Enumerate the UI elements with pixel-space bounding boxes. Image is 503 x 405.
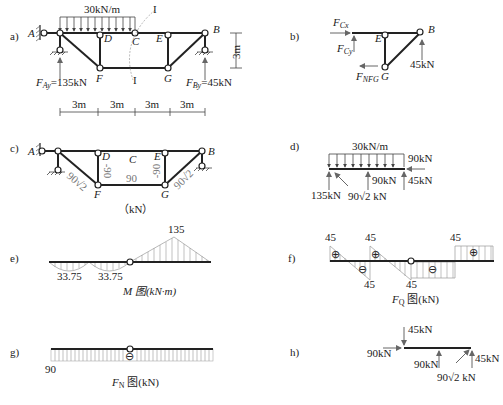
force-45kN-top-h: 45kN [408,323,433,335]
moment-value-2: 33.75 [98,270,123,282]
shear-diagram-title: FQ 图(kN) [391,293,439,307]
panel-a-label: a) [10,30,19,43]
node-G-label-c: G [161,188,169,200]
panel-c-member-forces: c) A D C E B F G 90√2 -90 90 -90 90√2 （k… [10,142,215,215]
node-A-label-c: A [27,145,35,157]
section-mark-bottom: I [133,74,137,86]
span-1: 3m [72,98,87,110]
node-B-label-b: B [428,23,435,35]
node-C-label-c: C [129,153,137,165]
node-C-label: C [132,35,140,47]
panel-f-shear-diagram: f) ⊕ ⊖ ⊕ ⊖ ⊕ 45 45 45 45 45 FQ 图(kN) [288,231,494,307]
panel-c-label: c) [10,142,19,155]
distributed-load-label-d: 30kN/m [352,140,389,152]
panel-d-label: d) [290,140,300,153]
distributed-load-label: 30kN/m [84,3,121,15]
panel-g-axial-diagram: g) ⊖ 90 FN 图(kN) [10,346,213,390]
force-90kN-left-h: 90kN [367,347,392,359]
reaction-A: FAy=135kN [35,76,87,90]
shear-value-bottom-2: 45 [406,278,418,290]
force-90kN-mid-d: 90kN [372,174,397,186]
force-AF: 90√2 [65,169,90,193]
force-Fcx: FCx [332,16,349,30]
reaction-45kN-b: 45kN [410,58,435,70]
node-D-label-c: D [101,150,110,162]
force-90kN-mid-h: 90kN [414,358,439,370]
force-DF: -90 [102,164,114,179]
span-4: 3m [180,98,195,110]
panel-h-label: h) [290,346,300,359]
force-45kN-d: 45kN [408,174,433,186]
panel-a-truss: a) 30kN/m A [10,3,242,116]
node-F-label-c: F [93,188,101,200]
force-45kN-right-h: 45kN [475,352,500,364]
moment-diagram-title: M 图(kN·m) [122,285,176,298]
node-A-label: A [27,27,35,39]
shear-sign-2: ⊖ [358,263,367,275]
shear-value-top-2: 45 [365,231,377,243]
axial-sign: ⊖ [125,350,134,362]
force-GB: 90√2 [171,167,195,191]
panel-g-label: g) [10,346,20,359]
node-B-label-c: B [208,145,215,157]
panel-f-label: f) [288,252,296,265]
axial-value: 90 [45,363,57,375]
axial-diagram-title: FN 图(kN) [111,376,159,390]
moment-value-1: 33.75 [57,270,82,282]
panel-e-label: e) [10,252,19,265]
panel-d-beam-loading: d) 30kN/m 135kN 90√2 kN 90kN 90kN 45kN [290,140,433,202]
panel-e-moment-diagram: e) 33.75 33.75 135 M 图(kN·m) [10,223,211,298]
height-dimension: 3m [230,45,242,60]
shear-value-top-1: 45 [325,231,337,243]
shear-sign-1: ⊕ [331,248,340,260]
span-2: 3m [110,98,125,110]
reaction-B: FBy=45kN [185,76,232,90]
structural-analysis-figure: a) 30kN/m A [0,0,503,405]
span-3: 3m [145,98,160,110]
unit-label-c: （kN） [118,203,153,215]
node-E-label-c: E [153,150,161,162]
node-E-label: E [155,32,163,44]
panel-b-label: b) [290,30,300,43]
shear-sign-3: ⊕ [371,248,380,260]
distributed-load-arrows [60,17,135,31]
force-FG: 90 [126,172,138,184]
shear-value-top-3: 45 [450,231,462,243]
node-D-label: D [103,32,112,44]
force-135kN-d: 135kN [311,189,341,201]
shear-sign-5: ⊕ [469,246,478,258]
node-B-label: B [213,23,220,35]
shear-value-bottom-1: 45 [364,278,376,290]
force-EG: -90 [150,163,162,178]
node-F-label: F [95,72,103,84]
node-G-label: G [164,72,172,84]
node-G-label-b: G [381,70,389,82]
force-90sqrt2-d: 90√2 kN [348,190,387,202]
distributed-load-arrows-d [329,154,404,167]
force-90kN-right-d: 90kN [408,152,433,164]
moment-value-peak: 135 [168,223,185,235]
panel-h-free-body: h) 45kN 90kN 90kN 90√2 kN 45kN [290,323,500,383]
shear-sign-4: ⊖ [428,263,437,275]
section-mark-top: I [153,3,157,15]
panel-b-free-body: b) FCx FCy FNFG E B G 45kN [290,16,435,84]
force-Fcy: FCy [336,42,353,56]
node-E-label-b: E [374,32,382,44]
force-Fnfg: FNFG [355,70,379,84]
force-90sqrt2-h: 90√2 kN [437,371,476,383]
